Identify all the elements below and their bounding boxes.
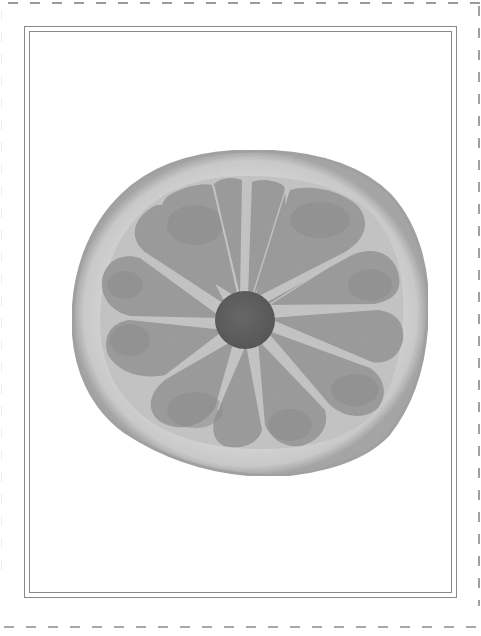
citrus-slice-photo bbox=[0, 0, 481, 636]
core bbox=[215, 291, 275, 349]
fruit-slice bbox=[73, 151, 428, 475]
